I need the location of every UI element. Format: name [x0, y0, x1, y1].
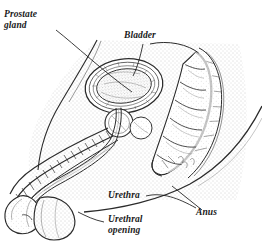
label-urethra: Urethra [108, 190, 140, 201]
label-anus: Anus [196, 207, 217, 218]
scrotum [34, 197, 75, 240]
label-prostate-gland: Prostate gland [4, 9, 37, 31]
anatomy-illustration: Prostate gland Bladder Urethra Urethral … [0, 0, 262, 248]
label-bladder: Bladder [124, 30, 156, 41]
leader-urethral-opening [78, 212, 104, 222]
label-urethral-opening: Urethral opening [108, 214, 143, 236]
